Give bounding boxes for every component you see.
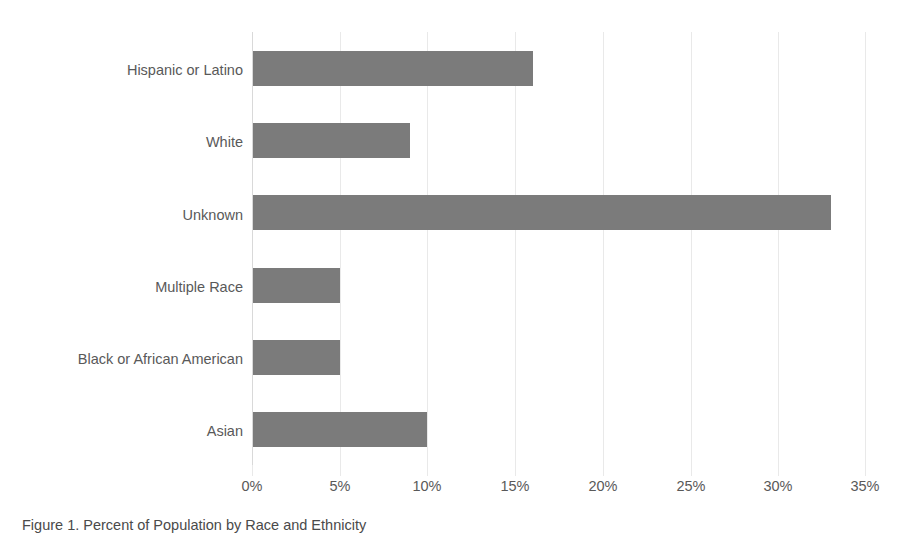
bar-row bbox=[252, 104, 866, 176]
x-tick-label-0: 0% bbox=[242, 478, 263, 494]
bar-hispanic-or-latino[interactable] bbox=[252, 51, 533, 86]
y-axis-line bbox=[252, 32, 253, 465]
bar-unknown[interactable] bbox=[252, 195, 831, 230]
bar-chart: Hispanic or Latino White Unknown Multipl… bbox=[0, 0, 904, 533]
y-axis-label-white: White bbox=[3, 135, 243, 150]
x-tick-label-25: 25% bbox=[676, 478, 705, 494]
x-tick-label-10: 10% bbox=[412, 478, 441, 494]
y-axis-label-hispanic-or-latino: Hispanic or Latino bbox=[3, 63, 243, 78]
bar-row bbox=[252, 249, 866, 321]
bar-row bbox=[252, 32, 866, 104]
x-tick-label-15: 15% bbox=[500, 478, 529, 494]
x-tick-label-35: 35% bbox=[850, 478, 879, 494]
y-axis-label-unknown: Unknown bbox=[3, 208, 243, 223]
y-axis-label-black-or-african-american: Black or African American bbox=[3, 352, 243, 367]
x-tick-label-5: 5% bbox=[330, 478, 351, 494]
x-tick-label-20: 20% bbox=[588, 478, 617, 494]
bar-multiple-race[interactable] bbox=[252, 268, 340, 303]
bar-asian[interactable] bbox=[252, 412, 427, 447]
bar-row bbox=[252, 393, 866, 465]
y-axis-labels: Hispanic or Latino White Unknown Multipl… bbox=[0, 32, 243, 465]
y-axis-label-multiple-race: Multiple Race bbox=[3, 280, 243, 295]
bar-white[interactable] bbox=[252, 123, 410, 158]
bar-row bbox=[252, 321, 866, 393]
x-axis-tick-labels: 0% 5% 10% 15% 20% 25% 30% 35% bbox=[252, 478, 866, 500]
figure-caption: Figure 1. Percent of Population by Race … bbox=[22, 516, 882, 533]
bar-black-or-african-american[interactable] bbox=[252, 340, 340, 375]
plot-area bbox=[252, 32, 866, 465]
bar-row bbox=[252, 176, 866, 248]
x-tick-label-30: 30% bbox=[763, 478, 792, 494]
y-axis-label-asian: Asian bbox=[3, 424, 243, 439]
